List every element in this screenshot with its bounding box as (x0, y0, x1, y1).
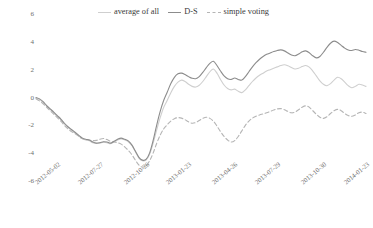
legend-swatch-d-s (168, 12, 181, 13)
plot-area (36, 14, 366, 181)
series-line-simple-voting (36, 99, 366, 167)
y-axis-tick-label: 4 (31, 38, 35, 45)
series-line-average-of-all (36, 65, 366, 161)
legend-swatch-average-of-all (98, 12, 111, 13)
y-axis: 6420-2-4-6 (0, 0, 34, 228)
plot-svg (36, 14, 366, 181)
legend-swatch-simple-voting (207, 12, 221, 13)
y-axis-tick-label: -4 (28, 150, 34, 157)
x-axis: 2012-05-022012-07-272012-10-262013-01-23… (36, 181, 366, 228)
y-axis-tick-label: 6 (31, 11, 35, 18)
y-axis-tick-label: 2 (31, 66, 35, 73)
line-chart: average of all D-S simple voting 6420-2-… (0, 0, 373, 228)
y-axis-tick-label: -2 (28, 122, 34, 129)
y-axis-tick-label: 0 (31, 94, 35, 101)
series-line-D-S (36, 41, 366, 160)
